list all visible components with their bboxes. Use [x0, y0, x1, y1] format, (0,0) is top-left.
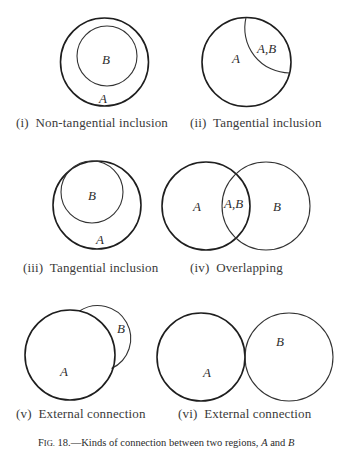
panel-caption: (ii) Tangential inclusion	[190, 115, 322, 130]
fig-prefix-smallcaps: IG.	[44, 438, 55, 448]
label-ab: A,B	[256, 41, 276, 56]
label-ab: A,B	[223, 196, 243, 211]
label-a: A	[95, 232, 104, 247]
region-a-circle	[25, 310, 115, 400]
panel-ii: A A,B (ii) Tangential inclusion	[190, 18, 322, 131]
panel-vi: A B (vi) External connection	[157, 313, 333, 421]
label-b: B	[88, 188, 96, 203]
label-a: A	[98, 91, 107, 106]
fig-number: 18.	[55, 437, 71, 448]
label-a: A	[231, 51, 240, 66]
region-connection-figure: B A (i) Non-tangential inclusion A A,B (…	[0, 0, 351, 457]
label-b: B	[117, 321, 125, 336]
region-b-arc	[80, 306, 131, 369]
fig-caption-b: B	[288, 437, 295, 448]
region-a-circle	[157, 313, 245, 401]
panel-caption: (i) Non-tangential inclusion	[16, 115, 168, 130]
fig-caption-text: —Kinds of connection between two regions…	[70, 437, 261, 448]
panel-caption: (iii) Tangential inclusion	[23, 260, 159, 275]
label-b: B	[276, 334, 284, 349]
panel-v: B A (v) External connection	[16, 306, 146, 421]
fig-caption-and: and	[268, 437, 288, 448]
label-a: A	[59, 364, 68, 379]
region-a-circle	[202, 18, 291, 107]
label-b: B	[273, 199, 281, 214]
panel-caption: (vi) External connection	[178, 406, 312, 421]
label-a: A	[192, 199, 201, 214]
region-b-circle	[245, 313, 333, 401]
panel-iv: A A,B B (iv) Overlapping	[162, 162, 310, 275]
panel-caption: (v) External connection	[16, 406, 146, 421]
label-b: B	[102, 52, 110, 67]
panel-i: B A (i) Non-tangential inclusion	[16, 18, 168, 130]
label-a: A	[202, 365, 211, 380]
figure-caption: FIG. 18.—Kinds of connection between two…	[38, 437, 295, 448]
panel-caption: (iv) Overlapping	[190, 260, 283, 275]
panel-iii: B A (iii) Tangential inclusion	[23, 161, 159, 275]
